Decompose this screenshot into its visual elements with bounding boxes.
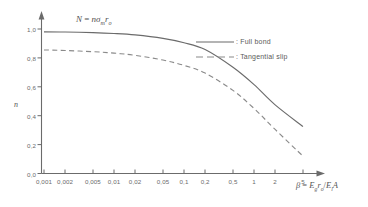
x-tick-label: 0,1 [180, 178, 189, 185]
y-axis-arrowhead [39, 11, 45, 20]
y-tick-label: 0,2 [20, 141, 36, 148]
equation-lhs: N [76, 14, 82, 24]
legend-dashed-line-icon [196, 53, 234, 61]
x-tick-label: 0,002 [57, 178, 73, 185]
legend-item-full-bond: : Full bond [196, 34, 346, 49]
x-tick-label: 5 [301, 178, 305, 185]
y-tick-label: 0,6 [20, 83, 36, 90]
y-axis-title: n [14, 100, 18, 109]
equation-equals: = [84, 14, 89, 24]
y-tick-label: 0,0 [20, 170, 36, 177]
x-tick-label: 0,001 [36, 178, 52, 185]
equation-annotation: N = nσmro [76, 14, 112, 26]
equation-r-subscript: o [108, 20, 111, 26]
x-tick-label: 2 [273, 178, 277, 185]
x-tick-label: 0,2 [201, 178, 210, 185]
legend-label-full-bond: : Full bond [236, 38, 271, 45]
chart-legend: : Full bond : Tangential slip [196, 34, 346, 64]
y-axis-ticks [38, 29, 42, 174]
x-axis-arrowhead [317, 171, 326, 177]
x-tick-label: 0,05 [157, 178, 169, 185]
legend-item-tangential-slip: : Tangential slip [196, 49, 346, 64]
xlabel-beta: β [296, 180, 300, 190]
legend-solid-line-icon [196, 38, 234, 46]
x-tick-label: 0,005 [85, 178, 101, 185]
y-tick-label: 0,4 [20, 112, 36, 119]
xlabel-a: A [333, 180, 338, 190]
x-tick-label: 0,5 [229, 178, 238, 185]
plot-canvas [0, 0, 368, 207]
chart-figure: N = nσmro : Full bond : Tangential slip … [0, 0, 368, 207]
x-axis-ticks [44, 170, 303, 174]
x-tick-label: 0,01 [108, 178, 120, 185]
series-tangential-slip-curve [44, 50, 303, 156]
legend-label-tangential-slip: : Tangential slip [236, 53, 288, 60]
y-tick-label: 0,8 [20, 54, 36, 61]
x-tick-label: 0,02 [129, 178, 141, 185]
x-tick-label: 1 [252, 178, 256, 185]
y-tick-label: 1,0 [20, 26, 36, 33]
